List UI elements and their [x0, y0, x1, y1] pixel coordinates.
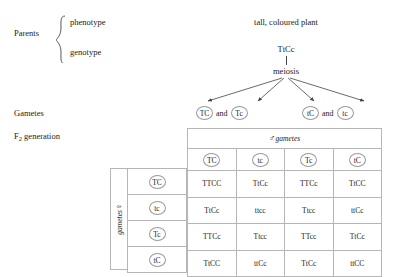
punnett-row-header: Tc — [128, 221, 187, 247]
punnett-row-header-row: tc — [128, 195, 187, 221]
female-gametes-axis-label: gametes♀ — [114, 203, 124, 234]
parents-brace — [55, 15, 67, 63]
punnett-column-header: TC — [188, 149, 237, 171]
punnett-cell: ttCc — [236, 250, 285, 277]
punnett-cell: TtCC — [333, 171, 382, 198]
label-f2-generation: F2 generation — [14, 131, 60, 142]
punnett-cell: TtCc — [285, 250, 334, 277]
punnett-row: TtCCttCcTtCcttCC — [188, 250, 382, 277]
gametes-right-conjunction: and — [319, 109, 337, 118]
label-parents: Parents — [14, 28, 39, 38]
male-symbol-icon: ♂ — [269, 134, 276, 144]
punnett-column-header-row: TCtcTctC — [188, 149, 382, 171]
punnett-cell: TtCc — [333, 224, 382, 251]
male-gametes-text: gametes — [276, 134, 301, 143]
punnett-cell: TTCc — [188, 224, 237, 251]
punnett-row-header-row: tC — [128, 247, 187, 273]
gamete-circle-tc-dominant: TC — [196, 106, 213, 120]
row-header-allele-circle: TC — [149, 175, 166, 189]
punnett-row-header: TC — [128, 169, 187, 195]
punnett-column-header: tc — [236, 149, 285, 171]
genotype-meiosis-connector — [286, 56, 287, 65]
column-header-allele-circle: tc — [252, 153, 269, 167]
gamete-circle-tc-recessive: tc — [337, 106, 354, 120]
female-gametes-axis: gametes♀ — [110, 168, 127, 270]
punnett-cell: ttCc — [333, 197, 382, 224]
gametes-left-conjunction: and — [213, 109, 231, 118]
row-header-allele-circle: tc — [149, 201, 166, 215]
punnett-column-header: Tc — [285, 149, 334, 171]
punnett-cell: Ttcc — [285, 197, 334, 224]
column-header-allele-circle: TC — [203, 153, 220, 167]
cross-genotype-text: TtCc — [278, 44, 295, 54]
punnett-row-header-row: Tc — [128, 221, 187, 247]
cross-phenotype-text: tall, coloured plant — [254, 17, 318, 27]
gametes-left-group: TCandTc — [196, 106, 248, 120]
punnett-row-header-row: TC — [128, 169, 187, 195]
punnett-row-header: tc — [128, 195, 187, 221]
row-header-allele-circle: Tc — [149, 227, 166, 241]
f2-suffix: generation — [22, 131, 60, 141]
punnett-row-headers: TCtcTctC — [127, 168, 187, 273]
punnett-cell: TTcc — [285, 224, 334, 251]
punnett-cell: TTCC — [188, 171, 237, 198]
column-header-allele-circle: tC — [349, 153, 366, 167]
male-gametes-header: ♂gametes — [188, 129, 382, 149]
punnett-row: TTCCTtCcTTCcTtCC — [188, 171, 382, 198]
punnett-column-header: tC — [333, 149, 382, 171]
gametes-right-group: tCandtc — [302, 106, 354, 120]
female-symbol-icon: ♀ — [114, 203, 124, 210]
punnett-row: TtCcttccTtccttCc — [188, 197, 382, 224]
punnett-cell: Ttcc — [236, 224, 285, 251]
punnett-cell: TtCC — [188, 250, 237, 277]
label-phenotype: phenotype — [70, 17, 105, 27]
punnett-cell: TtCc — [236, 171, 285, 198]
punnett-cell: TtCc — [188, 197, 237, 224]
column-header-allele-circle: Tc — [300, 153, 317, 167]
punnett-row-header: tC — [128, 247, 187, 273]
punnett-row: TTCcTtccTTccTtCc — [188, 224, 382, 251]
row-header-allele-circle: tC — [149, 253, 166, 267]
label-gametes: Gametes — [14, 108, 44, 118]
punnett-cell: ttcc — [236, 197, 285, 224]
meiosis-text: meiosis — [273, 66, 299, 76]
punnett-male-header-row: ♂gametes — [188, 129, 382, 149]
gamete-circle-tc-mixed: Tc — [231, 106, 248, 120]
punnett-cell: TTCc — [285, 171, 334, 198]
label-genotype: genotype — [70, 47, 101, 57]
row-header-body: TCtcTctC — [128, 169, 187, 273]
punnett-square: ♂gametes TCtcTctC TTCCTtCcTTCcTtCCTtCctt… — [187, 128, 382, 277]
gamete-circle-tc-recessive-dom: tC — [302, 106, 319, 120]
female-gametes-text: gametes — [115, 210, 124, 235]
punnett-cell: ttCC — [333, 250, 382, 277]
